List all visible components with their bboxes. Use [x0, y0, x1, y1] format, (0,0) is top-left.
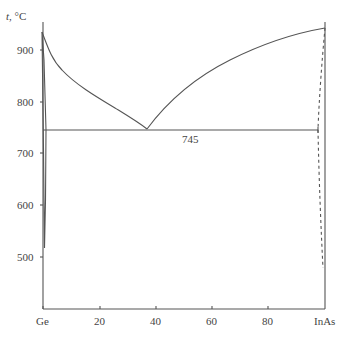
y-tick-label: 600 — [17, 199, 34, 211]
x-tick-label: 60 — [206, 315, 218, 327]
phase-diagram: t, °C 900 800 700 600 500 Ge 20 40 60 80… — [0, 0, 350, 340]
liquidus-inas-side — [147, 28, 325, 129]
eutectic-label: 745 — [182, 133, 199, 145]
y-tick-label: 900 — [17, 44, 34, 56]
liquidus-ge-side — [42, 32, 147, 129]
inas-solvus-dashed — [318, 28, 325, 268]
x-tick-label: Ge — [36, 315, 49, 327]
x-tick-label: 20 — [94, 315, 106, 327]
x-tick-label: 40 — [150, 315, 162, 327]
y-tick-label: 700 — [17, 147, 34, 159]
y-axis-label: t, °C — [6, 10, 26, 22]
x-tick-label: 80 — [262, 315, 274, 327]
y-tick-label: 500 — [17, 251, 34, 263]
y-tick-label: 800 — [17, 96, 34, 108]
x-tick-label: InAs — [314, 315, 335, 327]
